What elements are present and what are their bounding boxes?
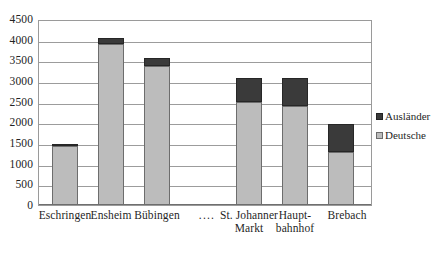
y-tick-label: 2000 bbox=[0, 117, 33, 129]
stray-ink-mark bbox=[56, 2, 62, 9]
y-tick-label: 4500 bbox=[0, 14, 33, 26]
y-tick-label: 3500 bbox=[0, 55, 33, 67]
y-tick-label: 2500 bbox=[0, 97, 33, 109]
bars-layer bbox=[38, 20, 372, 206]
bar-segment-deutsche bbox=[236, 102, 262, 205]
x-tick-label-line2: bahnhof bbox=[262, 222, 328, 235]
bar-segment-auslaender bbox=[98, 38, 124, 45]
legend-swatch-icon bbox=[376, 113, 383, 120]
y-tick-label: 1500 bbox=[0, 138, 33, 150]
bar-segment-deutsche bbox=[328, 152, 354, 205]
y-tick-label: 3000 bbox=[0, 76, 33, 88]
bar-segment-auslaender bbox=[328, 124, 354, 152]
legend-swatch-icon bbox=[376, 132, 383, 139]
bar-segment-auslaender bbox=[282, 78, 308, 106]
bar-segment-deutsche bbox=[98, 44, 124, 205]
y-tick-label: 1000 bbox=[0, 159, 33, 171]
x-axis-labels: Eschringen Ensheim Bübingen .... St. Joh… bbox=[38, 209, 372, 255]
bar-segment-auslaender bbox=[52, 144, 78, 146]
bar-ensheim bbox=[98, 38, 124, 205]
bar-segment-deutsche bbox=[52, 146, 78, 206]
bar-segment-auslaender bbox=[236, 78, 262, 102]
bar-hauptbahnhof bbox=[282, 78, 308, 205]
y-tick-label: 4000 bbox=[0, 35, 33, 47]
bar-segment-auslaender bbox=[144, 58, 170, 65]
x-tick-label-line1: Brebach bbox=[314, 209, 380, 222]
legend-label: Deutsche bbox=[385, 130, 426, 141]
x-tick-label-brebach: Brebach bbox=[314, 209, 380, 222]
y-tick-label: 500 bbox=[0, 179, 33, 191]
bar-segment-deutsche bbox=[282, 106, 308, 205]
legend-item-deutsche: Deutsche bbox=[376, 130, 438, 141]
bar-eschringen bbox=[52, 144, 78, 205]
stacked-bar-chart: 4500 4000 3500 3000 2500 2000 1500 1000 … bbox=[0, 0, 439, 257]
legend-label: Ausländer bbox=[385, 111, 430, 122]
bar-st-johanner-markt bbox=[236, 78, 262, 205]
chart-legend: Ausländer Deutsche bbox=[376, 111, 438, 149]
bar-segment-deutsche bbox=[144, 66, 170, 205]
legend-item-auslaender: Ausländer bbox=[376, 111, 438, 122]
bar-brebach bbox=[328, 124, 354, 205]
bar-buebingen bbox=[144, 58, 170, 205]
